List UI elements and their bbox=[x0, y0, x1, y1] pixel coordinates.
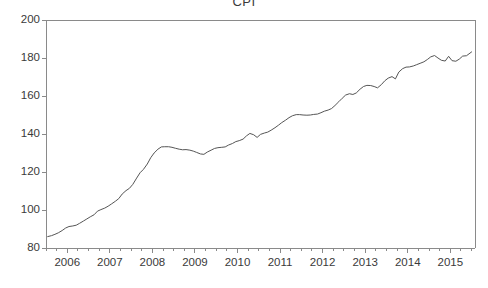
x-tick-label: 2006 bbox=[54, 257, 80, 269]
cpi-line-chart: CPI 80100120140160180200 200620072008200… bbox=[0, 0, 488, 288]
x-tick-label: 2015 bbox=[438, 257, 464, 269]
x-tick-label: 2013 bbox=[352, 257, 378, 269]
x-tick-label: 2011 bbox=[268, 257, 293, 269]
x-tick-label: 2014 bbox=[395, 257, 421, 269]
x-axis-tick-labels: 2006200720082009201020112012201320142015 bbox=[0, 0, 488, 288]
x-tick-label: 2009 bbox=[182, 257, 208, 269]
x-tick-label: 2010 bbox=[225, 257, 251, 269]
x-tick-label: 2008 bbox=[140, 257, 166, 269]
x-tick-label: 2007 bbox=[97, 257, 123, 269]
x-tick-label: 2012 bbox=[310, 257, 336, 269]
